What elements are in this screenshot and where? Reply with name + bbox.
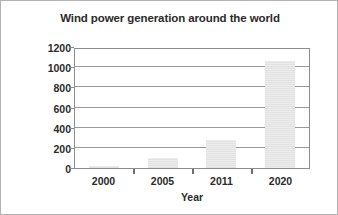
bar-slot (192, 49, 251, 168)
chart-figure: Wind power generation around the world G… (0, 0, 338, 215)
x-axis-title: Year (74, 191, 310, 203)
x-axis-tick-mark (192, 169, 194, 174)
bar-series (75, 49, 309, 168)
bar-slot (251, 49, 310, 168)
y-axis-tick-label: 1000 (37, 63, 71, 73)
y-axis-tick-label: 1200 (37, 43, 71, 53)
bar-slot (134, 49, 193, 168)
x-axis-tick-label: 2011 (192, 175, 251, 187)
y-axis-tick-label: 400 (37, 124, 71, 134)
x-axis-tick-label: 2005 (133, 175, 192, 187)
bar-2005 (148, 158, 178, 168)
y-axis-tick-labels: 020040060080010001200 (33, 48, 71, 169)
y-axis-tick-label: 200 (37, 144, 71, 154)
plot-area (74, 48, 310, 169)
bar-slot (75, 49, 134, 168)
chart-title: Wind power generation around the world (1, 12, 338, 24)
y-axis-tick-label: 600 (37, 104, 71, 114)
bar-2020 (265, 61, 295, 168)
x-axis-tick-labels: 2000200520112020 (74, 175, 310, 187)
y-axis-tick-label: 800 (37, 83, 71, 93)
bar-2011 (206, 140, 236, 168)
x-axis-tick-label: 2020 (251, 175, 310, 187)
x-axis-tick-marks (74, 169, 310, 174)
x-axis-tick-mark (251, 169, 253, 174)
x-axis-tick-label: 2000 (74, 175, 133, 187)
x-axis-tick-mark (133, 169, 135, 174)
y-axis-tick-label: 0 (37, 164, 71, 174)
bar-2000 (89, 166, 119, 168)
